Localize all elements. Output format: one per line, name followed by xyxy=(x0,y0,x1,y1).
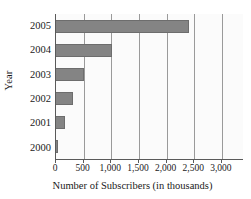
x-axis-tick-label: 0 xyxy=(53,164,58,174)
bar xyxy=(56,44,112,57)
bar-row xyxy=(56,14,243,38)
bar-row xyxy=(56,38,243,62)
plot-area xyxy=(55,14,243,160)
bar xyxy=(56,20,189,33)
x-axis-tick-label: 2,000 xyxy=(155,164,176,174)
x-axis-tick-label: 3,000 xyxy=(210,164,231,174)
bar xyxy=(56,116,65,129)
x-axis-tick-label: 1,500 xyxy=(127,164,148,174)
x-axis-tick-label: 1,000 xyxy=(100,164,121,174)
bar-chart: Year 200520042003200220012000 05001,0001… xyxy=(0,0,251,199)
bar xyxy=(56,68,84,81)
x-axis-tick-label: 500 xyxy=(76,164,90,174)
bar xyxy=(56,92,73,105)
x-axis-title: Number of Subscribers (in thousands) xyxy=(20,180,245,191)
y-axis-tick-label: 2005 xyxy=(14,14,54,38)
bar-row xyxy=(56,87,243,111)
y-axis-title-text: Year xyxy=(3,70,14,90)
x-axis-tick-label: 2,500 xyxy=(183,164,204,174)
bar-row xyxy=(56,135,243,159)
y-axis-tick-label: 2004 xyxy=(14,38,54,62)
bars-layer xyxy=(56,14,243,159)
y-axis-tick-label: 2002 xyxy=(14,87,54,111)
y-axis-tick-label: 2003 xyxy=(14,63,54,87)
y-axis-tick-label: 2000 xyxy=(14,136,54,160)
bar xyxy=(56,140,58,153)
y-axis-tick-label: 2001 xyxy=(14,111,54,135)
bar-row xyxy=(56,111,243,135)
x-axis-tick-labels: 05001,0001,5002,0002,5003,000 xyxy=(0,164,251,178)
y-axis-tick-labels: 200520042003200220012000 xyxy=(14,14,54,160)
bar-row xyxy=(56,62,243,86)
